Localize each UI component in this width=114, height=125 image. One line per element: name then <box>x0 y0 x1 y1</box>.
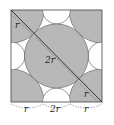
edge-semicircle-right <box>88 42 114 70</box>
label-bottom-middle-2r: 2r <box>49 104 61 114</box>
label-diagonal-top-r: r <box>15 20 20 30</box>
edge-semicircle-top <box>43 0 71 24</box>
label-center-2r: 2r <box>44 55 56 65</box>
label-diagonal-bottom-r: r <box>84 89 89 99</box>
label-bottom-left-r: r <box>24 104 29 114</box>
label-bottom-right-r: r <box>84 104 89 114</box>
geometry-diagram: r 2r r r 2r r <box>0 0 114 125</box>
edge-semicircle-left <box>0 42 25 70</box>
